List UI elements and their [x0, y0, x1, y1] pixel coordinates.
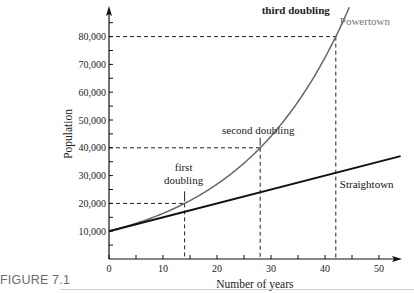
powertown-curve [109, 7, 349, 231]
axes: 0102030405010,00020,00030,00040,00050,00… [79, 6, 403, 274]
y-tick-label: 60,000 [79, 87, 107, 98]
y-tick-label: 30,000 [79, 170, 107, 181]
figure-caption: FIGURE 7.1 [0, 273, 70, 287]
x-tick-label: 10 [158, 263, 168, 274]
population-chart: 0102030405010,00020,00030,00040,00050,00… [0, 0, 414, 293]
first-doubling-label: first [175, 161, 193, 173]
y-axis-title: Population [62, 109, 75, 159]
powertown-label: Powertown [340, 15, 391, 27]
series-lines [109, 7, 401, 231]
first-doubling-label: doubling [164, 174, 204, 186]
y-tick-label: 80,000 [79, 31, 107, 42]
y-tick-label: 50,000 [79, 115, 107, 126]
straightown-line [109, 156, 401, 231]
y-tick-label: 40,000 [79, 142, 107, 153]
doubling-reference-lines [109, 37, 336, 259]
x-tick-label: 30 [266, 263, 276, 274]
straightown-label: Straightown [340, 178, 394, 190]
y-tick-label: 20,000 [79, 198, 107, 209]
second-doubling-label: second doubling [222, 124, 295, 136]
x-tick-label: 50 [374, 263, 384, 274]
x-tick-label: 0 [107, 263, 112, 274]
third-doubling-label: third doubling [262, 4, 331, 16]
y-tick-label: 10,000 [79, 226, 107, 237]
y-tick-label: 70,000 [79, 59, 107, 70]
caption-rule [60, 289, 414, 290]
x-tick-label: 40 [320, 263, 330, 274]
x-tick-label: 20 [212, 263, 222, 274]
